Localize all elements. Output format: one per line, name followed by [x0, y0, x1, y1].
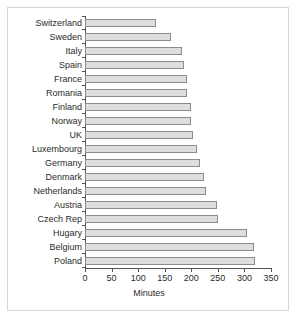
bar-czech-rep: [85, 215, 218, 223]
y-tick-mark: [82, 29, 85, 30]
bar-france: [85, 75, 187, 83]
x-axis-title: Minutes: [8, 288, 290, 298]
x-tick-label-250: 250: [210, 274, 225, 283]
y-axis-label-hugary: Hugary: [53, 229, 82, 238]
y-axis-label-norway: Norway: [51, 117, 82, 126]
bar-netherlands: [85, 187, 206, 195]
x-tick-label-50: 50: [107, 274, 117, 283]
y-tick-mark: [82, 225, 85, 226]
bar-romania: [85, 89, 187, 97]
bar-spain: [85, 61, 184, 69]
y-tick-mark: [82, 155, 85, 156]
y-axis-label-germany: Germany: [45, 159, 82, 168]
bar-hugary: [85, 229, 247, 237]
y-axis-label-denmark: Denmark: [45, 173, 82, 182]
bar-finland: [85, 103, 191, 111]
bar-poland: [85, 257, 255, 265]
bar-germany: [85, 159, 200, 167]
y-axis-label-sweden: Sweden: [49, 33, 82, 42]
x-tick-label-150: 150: [157, 274, 172, 283]
y-axis-label-austria: Austria: [54, 201, 82, 210]
bar-chart-plot-area: SwitzerlandSwedenItalySpainFranceRomania…: [8, 8, 290, 312]
y-axis-category-labels: SwitzerlandSwedenItalySpainFranceRomania…: [8, 8, 82, 312]
y-tick-mark: [82, 127, 85, 128]
y-tick-mark: [82, 197, 85, 198]
y-axis-label-switzerland: Switzerland: [35, 19, 82, 28]
y-tick-mark: [82, 113, 85, 114]
y-tick-mark: [82, 16, 85, 17]
y-tick-mark: [82, 169, 85, 170]
y-axis-label-italy: Italy: [65, 47, 82, 56]
y-tick-mark: [82, 211, 85, 212]
x-tick-label-350: 350: [263, 274, 278, 283]
bar-denmark: [85, 173, 204, 181]
y-axis-label-luxembourg: Luxembourg: [32, 145, 82, 154]
y-tick-mark: [82, 71, 85, 72]
bar-sweden: [85, 33, 171, 41]
bar-italy: [85, 47, 182, 55]
y-axis-label-romania: Romania: [46, 89, 82, 98]
y-tick-mark: [82, 85, 85, 86]
y-tick-mark: [82, 239, 85, 240]
bar-switzerland: [85, 19, 156, 27]
bar-uk: [85, 131, 193, 139]
x-tick-mark: [271, 269, 272, 272]
y-axis-label-netherlands: Netherlands: [33, 187, 82, 196]
x-tick-mark: [112, 269, 113, 272]
x-tick-label-0: 0: [82, 274, 87, 283]
x-tick-mark: [165, 269, 166, 272]
y-tick-mark: [82, 99, 85, 100]
y-tick-mark: [82, 43, 85, 44]
y-axis-label-belgium: Belgium: [49, 243, 82, 252]
y-tick-mark: [82, 253, 85, 254]
bar-belgium: [85, 243, 254, 251]
y-axis-label-czech-rep: Czech Rep: [37, 215, 82, 224]
y-axis-label-uk: UK: [69, 131, 82, 140]
x-tick-label-300: 300: [237, 274, 252, 283]
y-axis-label-finland: Finland: [52, 103, 82, 112]
y-tick-mark: [82, 141, 85, 142]
chart-frame: SwitzerlandSwedenItalySpainFranceRomania…: [7, 7, 289, 311]
x-tick-mark: [218, 269, 219, 272]
bar-luxembourg: [85, 145, 197, 153]
y-tick-mark: [82, 57, 85, 58]
x-tick-mark: [85, 269, 86, 272]
x-tick-mark: [244, 269, 245, 272]
x-tick-label-200: 200: [184, 274, 199, 283]
bar-norway: [85, 117, 191, 125]
y-axis-label-spain: Spain: [59, 61, 82, 70]
y-axis-label-poland: Poland: [54, 257, 82, 266]
x-tick-mark: [191, 269, 192, 272]
y-tick-mark: [82, 183, 85, 184]
y-tick-mark: [82, 267, 85, 268]
y-axis-label-france: France: [54, 75, 82, 84]
bar-austria: [85, 201, 217, 209]
x-tick-label-100: 100: [131, 274, 146, 283]
x-tick-mark: [138, 269, 139, 272]
